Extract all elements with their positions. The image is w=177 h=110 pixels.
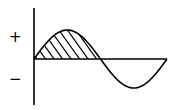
hatch-line (111, 19, 141, 61)
hatch-line (145, 19, 175, 61)
hatch-line (43, 19, 73, 61)
hatch-line (77, 19, 107, 61)
hatch-fill (0, 19, 175, 61)
hatch-line (68, 19, 98, 61)
hatch-line (128, 19, 158, 61)
hatch-line (51, 19, 81, 61)
positive-label: + (9, 28, 22, 46)
sine-wave-diagram: + − (0, 0, 177, 110)
hatch-line (26, 19, 56, 61)
hatch-line (85, 19, 115, 61)
hatch-line (136, 19, 166, 61)
hatch-line (102, 19, 132, 61)
negative-label: − (9, 70, 22, 88)
hatch-line (119, 19, 149, 61)
